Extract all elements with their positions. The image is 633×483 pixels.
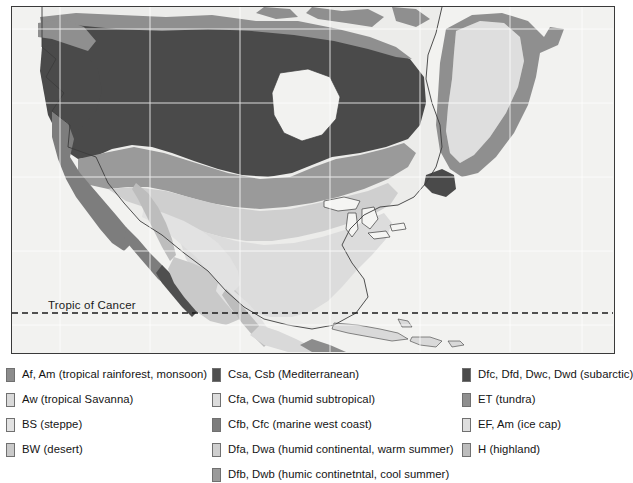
legend-swatch-aw [6,393,15,407]
legend-item: Cfa, Cwa (humid subtropical) [212,388,462,411]
legend-swatch-et-tundra [462,393,471,407]
legend-item: EF, Am (ice cap) [462,413,627,436]
legend-swatch-dfc-subarctic [462,368,471,382]
legend-label: Af, Am (tropical rainforest, monsoon) [22,368,207,381]
map-frame: Tropic of Cancer [11,6,615,354]
legend-item: Dfa, Dwa (humid continental, warm summer… [212,438,462,461]
legend-label: Dfa, Dwa (humid continental, warm summer… [228,443,454,456]
legend-label: Cfb, Cfc (marine west coast) [228,418,372,431]
legend-swatch-csa-csb [212,368,221,382]
legend-item: BW (desert) [6,438,211,461]
legend-item: H (highland) [462,438,627,461]
legend-swatch-dfb-dwb [212,468,221,482]
legend-label: Cfa, Cwa (humid subtropical) [228,393,375,406]
legend-label: H (highland) [478,443,540,456]
legend-swatch-cfa-cwa [212,393,221,407]
tropic-of-cancer-label: Tropic of Cancer [48,299,136,311]
climate-map-figure: Tropic of Cancer [0,0,627,360]
legend-label: Dfb, Dwb (humic continetntal, cool summe… [228,468,449,481]
map-legend: Af, Am (tropical rainforest, monsoon) Aw… [0,363,627,483]
legend-swatch-bw [6,443,15,457]
legend-label: EF, Am (ice cap) [478,418,561,431]
legend-swatch-dfa-dwa [212,443,221,457]
legend-swatch-cfb-cfc [212,418,221,432]
legend-item: ET (tundra) [462,388,627,411]
legend-item: Dfb, Dwb (humic continetntal, cool summe… [212,463,462,483]
legend-item: Csa, Csb (Mediterranean) [212,363,462,386]
legend-swatch-af-am [6,368,15,382]
legend-label: BW (desert) [22,443,83,456]
legend-item: Cfb, Cfc (marine west coast) [212,413,462,436]
legend-label: Csa, Csb (Mediterranean) [228,368,359,381]
legend-column-temperate-continental: Csa, Csb (Mediterranean) Cfa, Cwa (humid… [212,363,462,483]
legend-column-polar-highland: Dfc, Dfd, Dwc, Dwd (subarctic) ET (tundr… [462,363,627,463]
legend-label: Dfc, Dfd, Dwc, Dwd (subarctic) [478,368,633,381]
legend-swatch-bs [6,418,15,432]
legend-label: Aw (tropical Savanna) [22,393,133,406]
legend-item: Dfc, Dfd, Dwc, Dwd (subarctic) [462,363,627,386]
legend-swatch-ef-am [462,418,471,432]
legend-column-tropical-dry: Af, Am (tropical rainforest, monsoon) Aw… [6,363,211,463]
legend-item: Af, Am (tropical rainforest, monsoon) [6,363,211,386]
legend-item: BS (steppe) [6,413,211,436]
legend-swatch-h-highland [462,443,471,457]
legend-item: Aw (tropical Savanna) [6,388,211,411]
legend-label: ET (tundra) [478,393,535,406]
legend-label: BS (steppe) [22,418,82,431]
